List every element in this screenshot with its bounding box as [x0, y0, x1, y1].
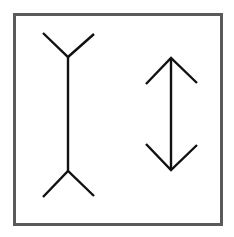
left-figure-fins-out: [43, 33, 94, 197]
right-figure-arrowheads: [146, 58, 197, 170]
muller-lyer-diagram: [0, 0, 234, 237]
left-top-fins: [43, 33, 94, 57]
left-bottom-fins: [43, 171, 94, 197]
